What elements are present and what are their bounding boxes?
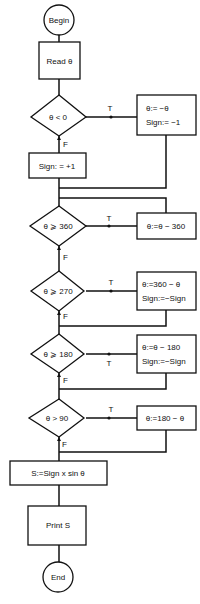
reflect-180-box: θ:=180 − θ — [137, 406, 196, 430]
svg-text:θ > 90: θ > 90 — [46, 414, 69, 423]
sign-positive-box: Sign: = +1 — [29, 153, 86, 178]
print-box: Print S — [28, 506, 86, 545]
svg-text:θ:=180 − θ: θ:=180 − θ — [146, 414, 185, 423]
reflect-360-box: θ:=360 − θ Sign:=−Sign — [137, 272, 196, 310]
subtract-360-box: θ:=θ − 360 — [137, 213, 196, 239]
begin-terminal: Begin — [44, 5, 74, 35]
svg-text:S:=Sign x sin θ: S:=Sign x sin θ — [31, 469, 85, 478]
false-label: F — [63, 140, 68, 149]
decision-theta-lt-0: θ < 0 — [31, 95, 86, 136]
decision-theta-ge-180: θ ⩾ 180 — [31, 334, 84, 373]
svg-text:θ:=θ − 180: θ:=θ − 180 — [142, 343, 181, 352]
svg-text:θ ⩾ 270: θ ⩾ 270 — [43, 287, 73, 296]
negate-theta-box: θ:= −θ Sign:= −1 — [137, 95, 196, 135]
svg-text:End: End — [51, 573, 65, 582]
true-label: T — [108, 104, 113, 113]
svg-text:Sign: = +1: Sign: = +1 — [39, 162, 76, 171]
svg-text:Sign:= −1: Sign:= −1 — [146, 118, 181, 127]
true-label: T — [109, 278, 114, 287]
svg-text:Sign:=−Sign: Sign:=−Sign — [142, 357, 186, 366]
decision-theta-ge-360: θ ⩾ 360 — [30, 206, 86, 246]
false-label: F — [62, 440, 67, 449]
false-label: F — [63, 376, 68, 385]
svg-text:θ ⩾ 360: θ ⩾ 360 — [43, 222, 73, 231]
svg-text:θ:=360 − θ: θ:=360 − θ — [142, 280, 181, 289]
true-label: T — [107, 359, 112, 368]
svg-text:Begin: Begin — [49, 16, 69, 25]
decision-theta-gt-90: θ > 90 — [29, 399, 84, 437]
compute-sine-box: S:=Sign x sin θ — [10, 461, 107, 485]
subtract-180-box: θ:=θ − 180 Sign:=−Sign — [137, 335, 196, 373]
svg-text:Read θ: Read θ — [47, 57, 73, 66]
flowchart: Begin Read θ θ < 0 T F θ:= −θ Sign:= −1 … — [0, 0, 200, 604]
false-label: F — [63, 312, 68, 321]
svg-text:Sign:=−Sign: Sign:=−Sign — [142, 294, 186, 303]
svg-text:θ < 0: θ < 0 — [49, 113, 68, 122]
svg-text:θ:=θ − 360: θ:=θ − 360 — [147, 222, 186, 231]
svg-text:θ ⩾ 180: θ ⩾ 180 — [43, 350, 73, 359]
true-label: T — [107, 214, 112, 223]
false-label: F — [63, 253, 68, 262]
read-theta-box: Read θ — [39, 42, 80, 79]
decision-theta-ge-270: θ ⩾ 270 — [31, 271, 84, 311]
svg-text:Print S: Print S — [46, 521, 70, 530]
end-terminal: End — [43, 562, 73, 592]
true-label: T — [109, 405, 114, 414]
svg-text:θ:= −θ: θ:= −θ — [146, 104, 169, 113]
